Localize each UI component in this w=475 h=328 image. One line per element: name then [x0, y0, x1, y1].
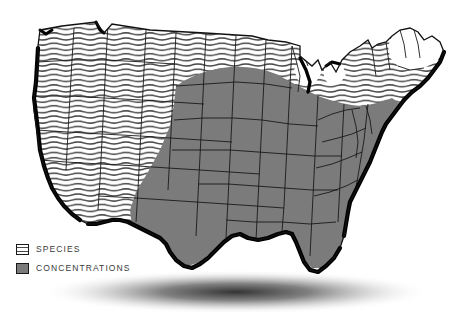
legend-item-concentrations: CONCENTRATIONS: [16, 259, 131, 278]
legend-label-species: SPECIES: [36, 244, 81, 255]
legend-swatch-species-hatch-icon: [16, 244, 29, 255]
us-map-svg: [0, 0, 475, 328]
legend-swatch-concentrations-solid-icon: [16, 263, 29, 274]
map-figure: SPECIES CONCENTRATIONS: [0, 0, 475, 328]
legend-label-concentrations: CONCENTRATIONS: [36, 263, 131, 274]
legend-item-species: SPECIES: [16, 240, 131, 259]
map-legend: SPECIES CONCENTRATIONS: [16, 240, 131, 278]
